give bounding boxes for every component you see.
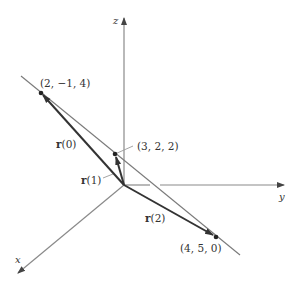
z-axis-label: z	[112, 15, 119, 26]
x-axis	[18, 185, 124, 273]
parametric-line	[21, 76, 240, 255]
vector-r1-label: r(1)	[81, 174, 101, 186]
y-axis-label: y	[278, 191, 285, 202]
point-p1-dot	[113, 152, 118, 157]
point-p0-label: (2, −1, 4)	[40, 77, 90, 89]
vector-r2	[124, 185, 213, 235]
point-p1-label: (3, 2, 2)	[137, 140, 179, 152]
point-p2-dot	[214, 235, 219, 240]
point-p2-label: (4, 5, 0)	[180, 242, 222, 254]
vector-r0-label: r(0)	[56, 138, 76, 150]
vector-r2-label: r(2)	[145, 212, 165, 224]
vector-line-diagram: z y x (2, −1, 4) (3, 2, 2) (4, 5, 0) r(0…	[0, 0, 301, 290]
leader-r1	[103, 174, 113, 178]
point-p0-dot	[39, 91, 44, 96]
x-axis-label: x	[15, 254, 21, 265]
